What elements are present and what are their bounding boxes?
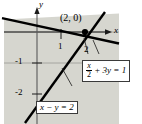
equation-box-fraction: x 2 + 3y = 1 (82, 60, 130, 82)
y-tick-label-neg1: -1 (15, 57, 23, 66)
equation-fraction-rest: + 3y = 1 (94, 65, 126, 75)
math-figure: y x (2, 0) 1 -1 -2 2 x 2 + 3y = 1 x − y … (0, 0, 142, 124)
x-axis-label: x (114, 26, 118, 35)
x-intercept-label: 2 (84, 45, 89, 54)
intersection-label: (2, 0) (60, 13, 82, 23)
intersection-point (82, 29, 88, 35)
fraction-denominator: 2 (86, 71, 92, 79)
fraction-x-over-2: x 2 (86, 62, 92, 80)
y-tick-label-neg2: -2 (15, 88, 23, 97)
x-tick-label-1: 1 (58, 42, 63, 51)
y-axis-label: y (39, 0, 43, 9)
equation-box-linear: x − y = 2 (36, 101, 78, 114)
